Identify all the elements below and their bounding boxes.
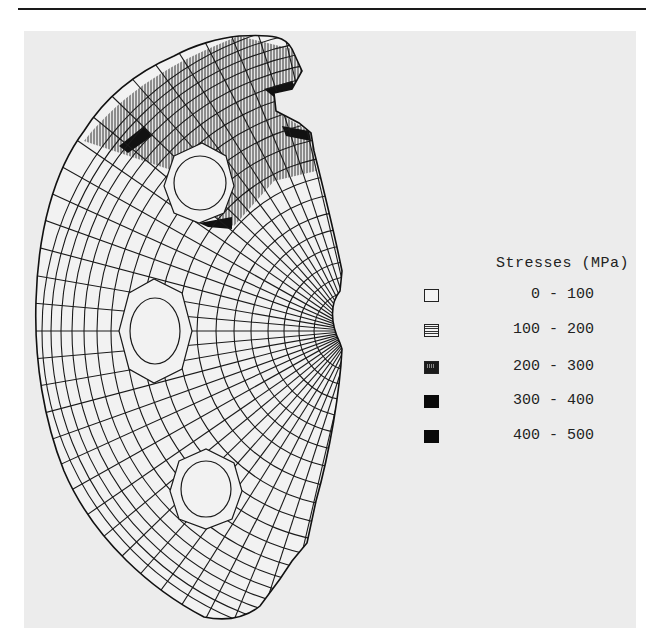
notch [334, 289, 390, 345]
legend-label: 100 - 200 [474, 321, 594, 338]
swatch-hatch [424, 324, 439, 337]
swatch-black [424, 395, 439, 408]
legend-item-0-100: 0 - 100 [424, 286, 644, 306]
top-rule [18, 8, 646, 10]
swatch-empty [424, 289, 439, 302]
legend-item-300-400: 300 - 400 [424, 392, 644, 412]
legend-title: Stresses (MPa) [496, 255, 629, 272]
swatch-dark [424, 361, 439, 374]
swatch-black [424, 430, 439, 443]
legend-label: 300 - 400 [474, 392, 594, 409]
legend-item-200-300: 200 - 300 [424, 358, 644, 378]
figure-panel: Stresses (MPa) 0 - 100 100 - 200 200 - 3… [24, 31, 636, 628]
hole-middle [119, 279, 192, 383]
hole-bottom [170, 449, 242, 529]
legend-item-400-500: 400 - 500 [424, 427, 644, 447]
legend-label: 0 - 100 [474, 286, 594, 303]
legend-item-100-200: 100 - 200 [424, 321, 644, 341]
legend-label: 400 - 500 [474, 427, 594, 444]
legend-label: 200 - 300 [474, 358, 594, 375]
